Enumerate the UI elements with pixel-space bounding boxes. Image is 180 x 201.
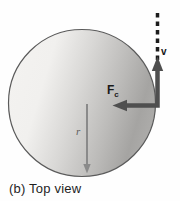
force-label: Fc [107,84,119,99]
force-label-subscript: c [114,90,118,99]
disc-circle [9,30,156,177]
velocity-arrowhead-icon [152,57,163,72]
figure-caption: (b) Top view [9,181,81,196]
velocity-label: v [161,47,167,57]
figure-canvas [0,0,180,201]
radius-label: r [76,126,80,137]
top-view-figure: v Fc r (b) Top view [0,0,180,201]
